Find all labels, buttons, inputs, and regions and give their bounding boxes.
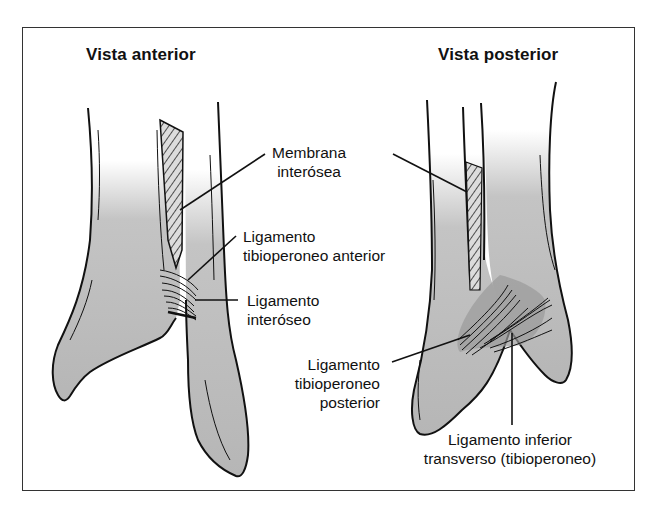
- label-ligamento-tibioperoneo-anterior: Ligamento tibioperoneo anterior: [243, 227, 385, 265]
- label-membrana-interosea: Membrana interósea: [272, 143, 346, 181]
- label-line: Membrana: [272, 143, 346, 162]
- label-line: transverso (tibioperoneo): [405, 449, 615, 468]
- view-title-anterior: Vista anterior: [86, 45, 196, 65]
- label-ligamento-tibioperoneo-posterior: Ligamento tibioperoneo posterior: [270, 355, 380, 412]
- label-line: Ligamento inferior: [405, 430, 615, 449]
- fibula-anterior: [185, 102, 248, 476]
- label-line: Ligamento: [243, 227, 385, 246]
- label-line: tibioperoneo: [270, 374, 380, 393]
- label-line: interósea: [272, 162, 346, 181]
- label-line: tibioperoneo anterior: [243, 246, 385, 265]
- label-line: interóseo: [247, 310, 319, 329]
- label-line: Ligamento: [247, 291, 319, 310]
- label-line: posterior: [270, 393, 380, 412]
- label-line: Ligamento: [270, 355, 380, 374]
- view-title-posterior: Vista posterior: [438, 45, 558, 65]
- anterior-view-drawing: [53, 102, 249, 476]
- label-ligamento-interoseo: Ligamento interóseo: [247, 291, 319, 329]
- label-ligamento-inferior-transverso: Ligamento inferior transverso (tibiopero…: [405, 430, 615, 468]
- posterior-view-drawing: [412, 82, 572, 435]
